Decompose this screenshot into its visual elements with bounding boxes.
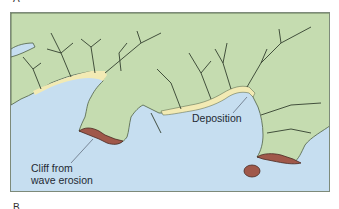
- panel-letter-b: B: [13, 202, 20, 209]
- deposition-label: Deposition: [192, 112, 242, 124]
- cliff-label-line1: Cliff from: [31, 162, 93, 174]
- panel-letter-a: A: [13, 0, 20, 4]
- cliff-label-line2: wave erosion: [31, 174, 93, 186]
- sea-stack: [244, 165, 260, 177]
- cliff-label: Cliff from wave erosion: [31, 162, 93, 186]
